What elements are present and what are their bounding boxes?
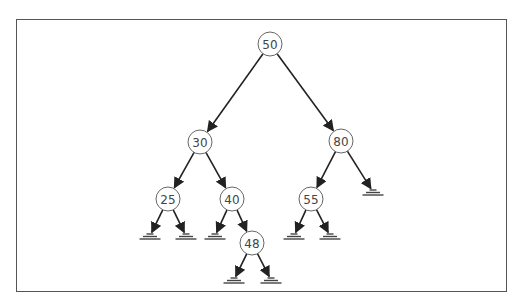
tree-node-50: 50 <box>258 32 282 56</box>
edge-n40-null_40L <box>217 210 227 232</box>
tree-node-80: 80 <box>329 129 353 153</box>
node-label: 40 <box>224 193 239 207</box>
edge-n55-null_55L <box>296 210 306 232</box>
node-label: 80 <box>333 135 348 149</box>
tree-node-40: 40 <box>220 187 244 211</box>
tree-node-30: 30 <box>188 130 212 154</box>
edge-n30-n25 <box>174 152 194 187</box>
edge-n25-null_25R <box>173 210 184 233</box>
node-label: 25 <box>160 193 175 207</box>
null-ground-icon <box>261 278 282 283</box>
tree-diagram: 50308025405548 <box>0 0 529 307</box>
tree-node-48: 48 <box>240 231 264 255</box>
tree-node-25: 25 <box>156 187 180 211</box>
node-label: 50 <box>262 38 277 52</box>
edge-n25-null_25L <box>152 210 163 233</box>
tree-node-55: 55 <box>299 187 323 211</box>
null-ground-icon <box>363 190 384 195</box>
edge-n30-n40 <box>206 152 226 187</box>
edge-n50-n30 <box>208 54 263 132</box>
node-label: 55 <box>303 193 318 207</box>
edge-n48-null_48R <box>257 254 269 277</box>
null-ground-icon <box>176 234 197 239</box>
node-label: 30 <box>192 136 207 150</box>
node-label: 48 <box>244 237 259 251</box>
null-ground-icon <box>224 278 245 283</box>
null-ground-icon <box>205 234 226 239</box>
edge-n40-n48 <box>237 210 247 231</box>
edge-n50-n80 <box>277 54 333 131</box>
null-ground-icon <box>320 234 341 239</box>
edge-n80-null_80R <box>347 151 370 188</box>
null-ground-icon <box>140 234 161 239</box>
null-ground-icon <box>284 234 305 239</box>
edge-n55-null_55R <box>316 210 328 233</box>
edge-n48-null_48L <box>236 254 247 277</box>
edge-n80-n55 <box>317 152 336 188</box>
